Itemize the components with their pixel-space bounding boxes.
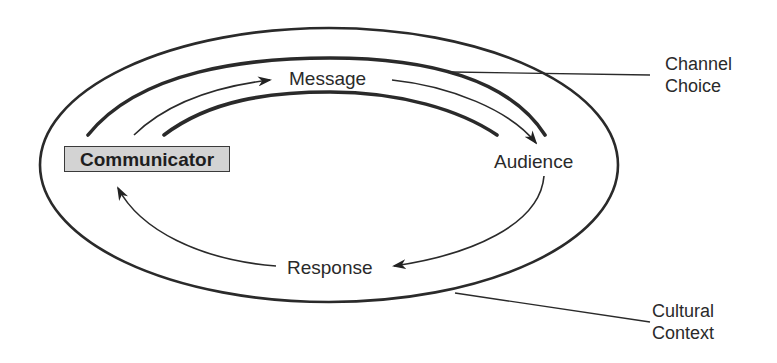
cultural-context-line2: Context	[652, 322, 714, 344]
channel-choice-leader-line	[452, 72, 650, 75]
cultural-context-line1: Cultural	[652, 300, 714, 322]
cultural-context-leader-line	[455, 293, 650, 322]
response-label: Response	[287, 258, 373, 277]
channel-choice-line2: Choice	[665, 75, 732, 97]
cultural-context-annotation: Cultural Context	[652, 300, 714, 344]
channel-arc-inner	[164, 92, 497, 135]
arrow-audience-to-response	[394, 176, 544, 266]
channel-choice-annotation: Channel Choice	[665, 53, 732, 97]
message-label: Message	[289, 69, 366, 88]
communicator-box: Communicator	[64, 146, 230, 172]
audience-label: Audience	[494, 152, 573, 171]
arrow-response-to-communicator	[118, 188, 276, 266]
communication-cycle-diagram: Communicator Message Audience Response C…	[0, 0, 777, 363]
channel-choice-line1: Channel	[665, 53, 732, 75]
arrow-message-to-audience	[392, 80, 536, 143]
communicator-label: Communicator	[80, 150, 214, 169]
